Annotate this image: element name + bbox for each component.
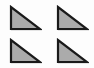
right-triangle-bottom-left bbox=[9, 38, 42, 64]
right-triangle-bottom-right bbox=[56, 38, 89, 64]
figure-canvas bbox=[0, 0, 94, 68]
right-triangle-top-right bbox=[56, 5, 89, 31]
triangle-grid bbox=[0, 0, 94, 68]
right-triangle-bottom-right-svg bbox=[56, 38, 89, 64]
right-triangle-bottom-left-svg bbox=[9, 38, 42, 64]
right-triangle-bottom-left-polygon bbox=[11, 40, 40, 62]
right-triangle-top-right-polygon bbox=[58, 7, 87, 29]
right-triangle-top-left-polygon bbox=[11, 7, 40, 29]
right-triangle-top-left-svg bbox=[9, 5, 42, 31]
right-triangle-top-left bbox=[9, 5, 42, 31]
right-triangle-top-right-svg bbox=[56, 5, 89, 31]
right-triangle-bottom-right-polygon bbox=[58, 40, 87, 62]
